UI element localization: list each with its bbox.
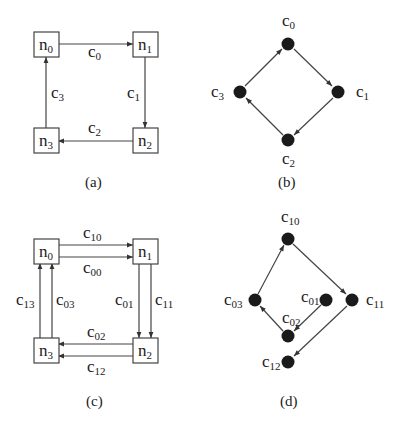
caption-d: (d) xyxy=(280,393,298,410)
label-c3: c3 xyxy=(211,82,225,102)
node-n3: n3 xyxy=(34,128,59,153)
node-n3: n3 xyxy=(34,338,59,363)
panel-c: n0 n1 n2 n3 c10 c00 c01 c11 c02 c12 c13 … xyxy=(16,223,173,410)
label-c12: c12 xyxy=(262,352,281,372)
edge-c02-c03 xyxy=(260,306,283,331)
node-n2: n2 xyxy=(133,128,158,153)
label-c13: c13 xyxy=(16,290,35,310)
node-c0 xyxy=(282,38,295,51)
edge-c11-c12 xyxy=(294,306,347,356)
edge-c3-c0 xyxy=(245,49,282,86)
edge-c0-c1 xyxy=(294,49,332,86)
label-c2: c2 xyxy=(88,118,101,138)
edge-c2-c3 xyxy=(246,98,283,135)
label-c12: c12 xyxy=(87,357,106,377)
label-c1: c1 xyxy=(356,82,369,102)
node-c11 xyxy=(346,294,359,307)
node-n1: n1 xyxy=(133,239,158,264)
node-c2 xyxy=(282,134,295,147)
node-c02 xyxy=(282,330,295,343)
label-c02: c02 xyxy=(87,322,106,342)
label-c2: c2 xyxy=(282,149,295,169)
node-c1 xyxy=(332,86,345,99)
label-c10: c10 xyxy=(281,207,300,227)
panel-a: n0 n1 n2 n3 c0 c1 c2 c3 (a) xyxy=(34,32,158,191)
label-c03: c03 xyxy=(224,290,243,310)
label-c0: c0 xyxy=(282,11,296,31)
label-c02: c02 xyxy=(282,308,301,328)
node-n2: n2 xyxy=(133,338,158,363)
caption-c: (c) xyxy=(86,393,103,410)
edge-c03-c10 xyxy=(258,245,284,294)
label-c11: c11 xyxy=(366,290,384,310)
node-c3 xyxy=(234,86,247,99)
label-c10: c10 xyxy=(83,223,102,243)
edge-c1-c2 xyxy=(294,98,333,135)
node-c03 xyxy=(249,294,262,307)
label-c01: c01 xyxy=(115,290,134,310)
node-c01 xyxy=(320,294,333,307)
label-c03: c03 xyxy=(56,290,75,310)
node-c10 xyxy=(282,233,295,246)
caption-a: (a) xyxy=(85,174,102,191)
caption-b: (b) xyxy=(278,174,296,191)
label-c01: c01 xyxy=(301,287,320,307)
node-c12 xyxy=(282,356,295,369)
label-c1: c1 xyxy=(127,83,140,103)
label-c3: c3 xyxy=(51,83,65,103)
panel-b: c0 c1 c2 c3 (b) xyxy=(211,11,369,191)
figure-canvas: n0 n1 n2 n3 c0 c1 c2 c3 (a) c0 c1 c xyxy=(0,0,411,428)
node-n0: n0 xyxy=(34,32,59,57)
label-c11: c11 xyxy=(155,290,173,310)
node-n0: n0 xyxy=(34,239,59,264)
label-c0: c0 xyxy=(88,42,102,62)
node-n1: n1 xyxy=(133,32,158,57)
panel-d: c10 c11 c03 c01 c02 c12 (d) xyxy=(224,207,384,410)
label-c00: c00 xyxy=(83,258,102,278)
